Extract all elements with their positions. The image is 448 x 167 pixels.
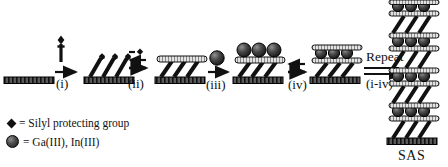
silyl-capped-ligand-reagent bbox=[57, 36, 64, 63]
stack-layer bbox=[389, 103, 439, 138]
stage-ligand-monolayer bbox=[84, 53, 134, 83]
reaction-arrow-iii bbox=[208, 51, 228, 72]
ligand-rod bbox=[265, 62, 276, 77]
reaction-arrow-ii bbox=[129, 49, 146, 68]
stack-layer bbox=[389, 68, 439, 103]
ligand-top-plate bbox=[235, 57, 285, 63]
reaction-arrow-i bbox=[55, 36, 76, 73]
legend-item-metal: = Ga(III), In(III) bbox=[6, 135, 99, 148]
ligand-rod bbox=[161, 61, 172, 77]
ligand-rod bbox=[174, 61, 185, 77]
step-label-iv: (iv) bbox=[288, 77, 307, 92]
ligand-top-plate bbox=[157, 56, 207, 62]
legend-item-silyl: = Silyl protecting group bbox=[8, 117, 129, 129]
ligand-rod bbox=[187, 61, 198, 77]
sphere-icon bbox=[6, 135, 19, 148]
ligand-rod bbox=[329, 63, 340, 77]
legend-silyl-text: = Silyl protecting group bbox=[19, 117, 129, 129]
step-label-i: (i) bbox=[56, 76, 68, 91]
sas-label: SAS bbox=[398, 148, 425, 163]
stage-bare-substrate bbox=[4, 77, 54, 84]
diamond-icon bbox=[7, 118, 17, 128]
metal-sphere bbox=[252, 43, 266, 57]
stack-layer bbox=[389, 0, 439, 33]
ligand-rod bbox=[342, 63, 353, 77]
ligand-rod bbox=[316, 63, 327, 77]
legend-metal-text: = Ga(III), In(III) bbox=[23, 136, 99, 148]
metal-sphere-reagent bbox=[210, 51, 224, 65]
stage-deprotected-monolayer bbox=[155, 56, 207, 84]
step-label-ii: (ii) bbox=[128, 76, 144, 91]
diamond-icon bbox=[58, 36, 65, 45]
metal-sphere bbox=[237, 43, 251, 57]
stage-multilayer-stack bbox=[387, 0, 439, 145]
metal-cap-plate bbox=[312, 45, 362, 50]
reaction-arrow-iv bbox=[288, 64, 305, 72]
ligand-rod bbox=[239, 62, 250, 77]
metal-sphere bbox=[267, 43, 281, 57]
stage-metal-capped-layer bbox=[233, 43, 285, 84]
ligand-rod bbox=[116, 53, 131, 77]
stage-single-bilayer bbox=[310, 45, 362, 84]
step-label-iii: (iii) bbox=[206, 77, 226, 92]
silyl-removal-label bbox=[129, 49, 143, 55]
ligand-rod bbox=[252, 62, 263, 77]
stack-layer bbox=[389, 33, 439, 68]
